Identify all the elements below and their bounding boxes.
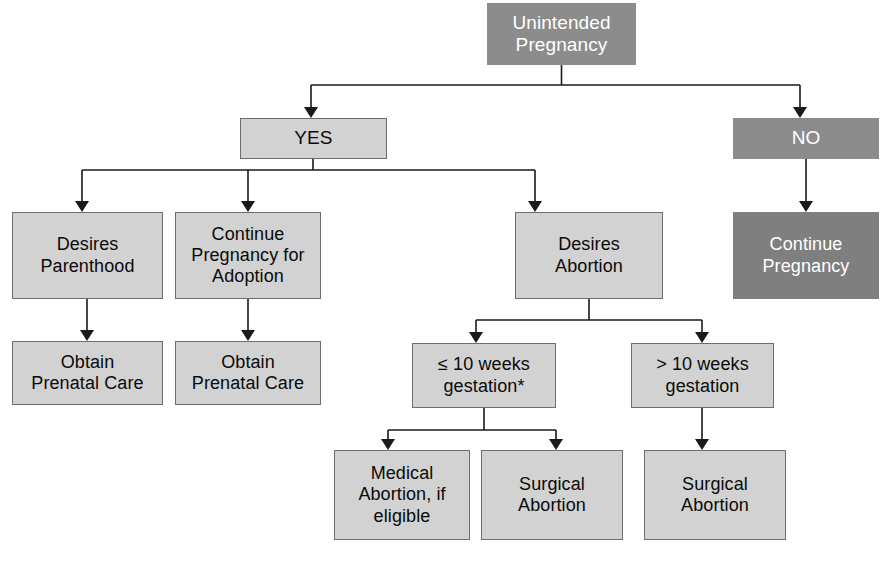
node-desires-parenthood: Desires Parenthood: [12, 212, 163, 299]
node-medical-abortion-if-eligible: Medical Abortion, if eligible: [334, 450, 470, 540]
arrowhead-icon: [793, 107, 807, 118]
node-surgical-abortion-left: Surgical Abortion: [481, 450, 623, 540]
node-no: NO: [733, 118, 879, 159]
flowchart-canvas: Unintended PregnancyYESNODesires Parenth…: [0, 0, 881, 564]
arrowhead-icon: [80, 330, 94, 341]
node-lte-10-weeks-gestation: ≤ 10 weeks gestation*: [412, 343, 556, 408]
node-continue-pregnancy: Continue Pregnancy: [733, 212, 879, 299]
arrowhead-icon: [304, 107, 318, 118]
node-desires-abortion: Desires Abortion: [515, 212, 663, 299]
node-obtain-prenatal-care-left: Obtain Prenatal Care: [12, 341, 163, 405]
node-gt-10-weeks-gestation: > 10 weeks gestation: [631, 343, 774, 408]
arrowhead-icon: [695, 332, 709, 343]
node-yes: YES: [240, 118, 387, 159]
node-continue-pregnancy-for-adoption: Continue Pregnancy for Adoption: [175, 212, 321, 299]
arrowhead-icon: [381, 439, 395, 450]
arrowhead-icon: [549, 439, 563, 450]
node-surgical-abortion-right: Surgical Abortion: [644, 450, 786, 540]
arrowhead-icon: [75, 201, 89, 212]
arrowhead-icon: [469, 332, 483, 343]
arrowhead-icon: [799, 201, 813, 212]
arrowhead-icon: [528, 201, 542, 212]
arrowhead-icon: [241, 330, 255, 341]
node-obtain-prenatal-care-middle: Obtain Prenatal Care: [175, 341, 321, 405]
arrowhead-icon: [695, 439, 709, 450]
node-unintended-pregnancy: Unintended Pregnancy: [487, 3, 636, 65]
arrowhead-icon: [241, 201, 255, 212]
